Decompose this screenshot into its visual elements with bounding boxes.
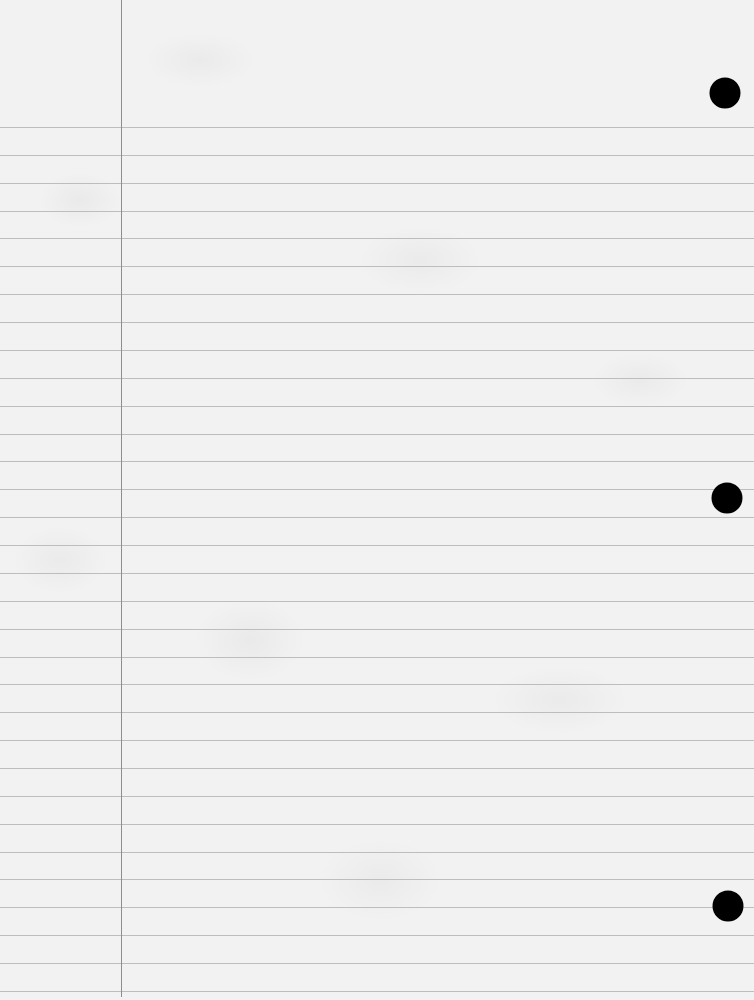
- ruled-line: [0, 712, 754, 713]
- ruled-line: [0, 517, 754, 518]
- ruled-line: [0, 406, 754, 407]
- ruled-line: [0, 991, 754, 992]
- ruled-line: [0, 796, 754, 797]
- ruled-line: [0, 573, 754, 574]
- ruled-line: [0, 545, 754, 546]
- ruled-line: [0, 266, 754, 267]
- ruled-line: [0, 434, 754, 435]
- punch-hole: [710, 78, 741, 109]
- ruled-line: [0, 768, 754, 769]
- ruled-line: [0, 211, 754, 212]
- ruled-line: [0, 740, 754, 741]
- ruled-line: [0, 629, 754, 630]
- notebook-paper: [0, 0, 754, 1000]
- margin-line: [121, 0, 122, 997]
- ruled-line: [0, 879, 754, 880]
- ruled-line: [0, 657, 754, 658]
- ruled-line: [0, 350, 754, 351]
- ruled-line: [0, 489, 754, 490]
- ruled-line: [0, 322, 754, 323]
- ruled-line: [0, 155, 754, 156]
- ruled-line: [0, 238, 754, 239]
- punch-hole: [713, 891, 744, 922]
- ruled-line: [0, 461, 754, 462]
- ruled-line: [0, 183, 754, 184]
- ruled-line: [0, 378, 754, 379]
- ruled-line: [0, 907, 754, 908]
- ruled-line: [0, 824, 754, 825]
- ruled-line: [0, 294, 754, 295]
- ruled-line: [0, 935, 754, 936]
- ruled-line: [0, 852, 754, 853]
- ruled-line: [0, 963, 754, 964]
- ruled-line: [0, 127, 754, 128]
- ruled-line: [0, 684, 754, 685]
- punch-hole: [712, 483, 743, 514]
- ruled-line: [0, 601, 754, 602]
